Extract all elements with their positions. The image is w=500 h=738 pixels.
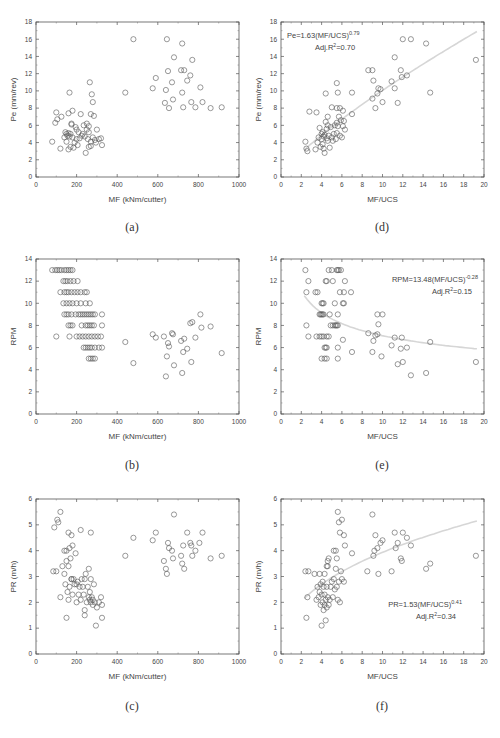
x-tick-label: 800 bbox=[193, 181, 204, 188]
data-points bbox=[51, 509, 225, 628]
data-points bbox=[50, 268, 225, 380]
x-tick-label: 20 bbox=[480, 658, 488, 665]
y-tick-label: 4 bbox=[273, 139, 277, 146]
y-tick-label: 6 bbox=[28, 495, 32, 502]
x-tick-label: 20 bbox=[480, 181, 488, 188]
x-tick-label: 400 bbox=[112, 418, 123, 425]
x-tick-label: 14 bbox=[419, 181, 427, 188]
x-tick-label: 14 bbox=[419, 658, 427, 665]
y-tick-label: 0 bbox=[273, 650, 277, 657]
fit-equation: RPM=13.48(MF/UCS)-0.28 bbox=[392, 274, 478, 285]
scatter-plot-b: 0200400600800100002468101214MF (kNm/cutt… bbox=[0, 237, 250, 447]
y-tick-label: 0 bbox=[273, 173, 277, 180]
fit-equation: PR=1.53(MF/UCS)0.41 bbox=[388, 599, 462, 610]
y-axis-label: PR (m/h) bbox=[9, 560, 18, 592]
y-tick-label: 18 bbox=[25, 18, 33, 25]
y-axis-label: Pe (mm/rev) bbox=[9, 77, 18, 121]
y-tick-label: 0 bbox=[28, 173, 32, 180]
y-tick-label: 2 bbox=[28, 156, 32, 163]
x-tick-label: 0 bbox=[279, 181, 283, 188]
y-tick-label: 16 bbox=[270, 36, 278, 43]
y-tick-label: 5 bbox=[28, 521, 32, 528]
caption-e: (e) bbox=[362, 458, 402, 473]
y-tick-label: 4 bbox=[28, 366, 32, 373]
y-tick-label: 4 bbox=[28, 139, 32, 146]
caption-c: (c) bbox=[112, 699, 152, 714]
x-tick-label: 600 bbox=[152, 418, 163, 425]
y-tick-label: 14 bbox=[25, 255, 33, 262]
r-squared: Adj.R2=0.70 bbox=[315, 42, 355, 52]
x-axis-label: MF (kNm/cutter) bbox=[109, 432, 167, 441]
y-axis-label: RPM bbox=[254, 327, 263, 345]
x-tick-label: 10 bbox=[379, 658, 387, 665]
x-tick-label: 6 bbox=[340, 181, 344, 188]
caption-b: (b) bbox=[112, 458, 152, 473]
y-tick-label: 5 bbox=[273, 521, 277, 528]
x-tick-label: 0 bbox=[34, 658, 38, 665]
scatter-plot-a: 02004006008001000024681012141618MF (kNm/… bbox=[0, 0, 250, 210]
fit-equation: Pe=1.63(MF/UCS)0.79 bbox=[287, 30, 360, 41]
chart-panel-e: 0246810121416182002468101214MF/UCSRPMRPM… bbox=[245, 237, 500, 447]
y-tick-label: 12 bbox=[270, 70, 278, 77]
y-tick-label: 10 bbox=[25, 300, 33, 307]
x-axis-label: MF/UCS bbox=[367, 432, 398, 441]
x-tick-label: 2 bbox=[299, 418, 303, 425]
y-axis-label: PR (m/h) bbox=[254, 560, 263, 592]
x-tick-label: 2 bbox=[299, 181, 303, 188]
y-tick-label: 12 bbox=[270, 277, 278, 284]
x-tick-label: 18 bbox=[460, 181, 468, 188]
chart-panel-d: 02468101214161820024681012141618MF/UCSPe… bbox=[245, 0, 500, 210]
x-tick-label: 20 bbox=[480, 418, 488, 425]
x-tick-label: 12 bbox=[399, 658, 407, 665]
x-tick-label: 0 bbox=[34, 181, 38, 188]
y-tick-label: 14 bbox=[270, 255, 278, 262]
chart-panel-b: 0200400600800100002468101214MF (kNm/cutt… bbox=[0, 237, 250, 447]
scatter-plot-e: 0246810121416182002468101214MF/UCSRPMRPM… bbox=[245, 237, 500, 447]
y-tick-label: 2 bbox=[273, 599, 277, 606]
y-tick-label: 2 bbox=[273, 156, 277, 163]
data-points bbox=[303, 268, 479, 378]
caption-a: (a) bbox=[112, 220, 152, 235]
r-squared: Adj.R2=0.15 bbox=[432, 286, 472, 296]
x-tick-label: 14 bbox=[419, 418, 427, 425]
y-tick-label: 10 bbox=[270, 87, 278, 94]
plot-frame bbox=[36, 259, 239, 414]
y-tick-label: 6 bbox=[273, 122, 277, 129]
x-tick-label: 4 bbox=[320, 658, 324, 665]
x-tick-label: 800 bbox=[193, 658, 204, 665]
y-tick-label: 16 bbox=[25, 36, 33, 43]
x-tick-label: 200 bbox=[71, 181, 82, 188]
x-tick-label: 8 bbox=[360, 418, 364, 425]
scatter-plot-d: 02468101214161820024681012141618MF/UCSPe… bbox=[245, 0, 500, 210]
fit-curve bbox=[304, 296, 477, 349]
y-tick-label: 4 bbox=[28, 547, 32, 554]
y-tick-label: 8 bbox=[273, 104, 277, 111]
y-axis-label: RPM bbox=[9, 327, 18, 345]
x-tick-label: 18 bbox=[460, 418, 468, 425]
x-tick-label: 6 bbox=[340, 418, 344, 425]
x-tick-label: 18 bbox=[460, 658, 468, 665]
y-tick-label: 6 bbox=[28, 122, 32, 129]
x-tick-label: 2 bbox=[299, 658, 303, 665]
plot-frame bbox=[36, 499, 239, 654]
x-tick-label: 800 bbox=[193, 418, 204, 425]
x-axis-label: MF/UCS bbox=[367, 672, 398, 681]
scatter-plot-f: 024681012141618200123456MF/UCSPR (m/h)PR… bbox=[245, 477, 500, 687]
plot-frame bbox=[281, 499, 484, 654]
data-points bbox=[303, 509, 479, 628]
y-tick-label: 14 bbox=[25, 53, 33, 60]
caption-f: (f) bbox=[362, 699, 402, 714]
chart-panel-f: 024681012141618200123456MF/UCSPR (m/h)PR… bbox=[245, 477, 500, 687]
x-tick-label: 16 bbox=[440, 658, 448, 665]
y-tick-label: 1 bbox=[28, 624, 32, 631]
x-tick-label: 400 bbox=[112, 181, 123, 188]
x-axis-label: MF/UCS bbox=[367, 195, 398, 204]
y-tick-label: 6 bbox=[273, 495, 277, 502]
x-tick-label: 200 bbox=[71, 658, 82, 665]
x-tick-label: 600 bbox=[152, 658, 163, 665]
x-tick-label: 4 bbox=[320, 181, 324, 188]
x-tick-label: 16 bbox=[440, 181, 448, 188]
y-tick-label: 2 bbox=[28, 388, 32, 395]
y-tick-label: 0 bbox=[28, 410, 32, 417]
y-tick-label: 14 bbox=[270, 53, 278, 60]
